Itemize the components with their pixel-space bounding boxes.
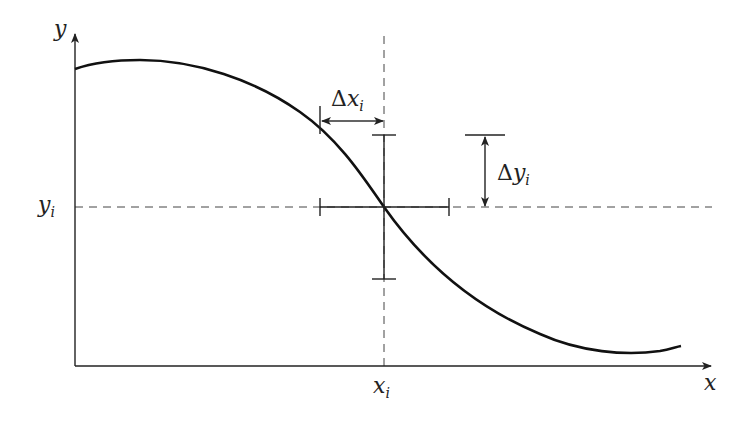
- xi-label: xi: [373, 373, 390, 401]
- x-axis-label: x: [704, 370, 717, 395]
- y-axis-label: y: [53, 16, 67, 41]
- delta-x-label: Δxi: [331, 86, 364, 114]
- delta-y-label: Δyi: [497, 160, 530, 188]
- error-bar-diagram: y x yi xi Δxi Δyi: [0, 0, 751, 423]
- yi-label: yi: [37, 192, 55, 220]
